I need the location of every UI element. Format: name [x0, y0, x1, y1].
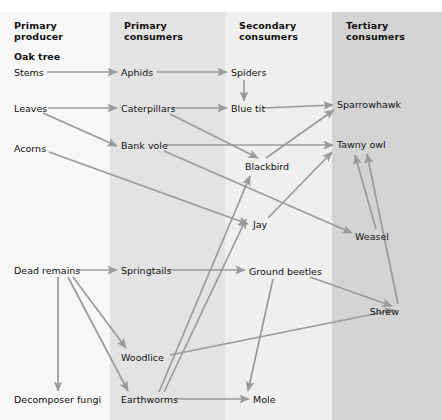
- node-blackbird: Blackbird: [245, 161, 289, 172]
- column-header-primary-producer: Primary producer: [14, 20, 63, 42]
- arrow-woodlice-to-shrew: [170, 310, 394, 355]
- arrow-dead-remains-to-earthworms: [68, 277, 128, 391]
- node-blue-tit: Blue tit: [231, 103, 265, 114]
- node-decomposer-fungi: Decomposer fungi: [14, 394, 101, 405]
- node-caterpillars: Caterpillars: [121, 103, 176, 114]
- node-stems: Stems: [14, 67, 44, 78]
- node-aphids: Aphids: [121, 67, 153, 78]
- node-earthworms: Earthworms: [121, 394, 178, 405]
- food-web-arrows: [0, 0, 442, 420]
- arrow-shrew-to-tawny-owl: [367, 154, 398, 304]
- node-springtails: Springtails: [121, 265, 171, 276]
- arrow-earthworms-to-jay: [164, 219, 246, 392]
- column-header-tertiary-consumers: Tertiary consumers: [346, 20, 405, 42]
- arrow-blue-tit-to-sparrowhawk: [263, 105, 333, 108]
- column-header-secondary-consumers: Secondary consumers: [239, 20, 298, 42]
- node-ground-beetles: Ground beetles: [249, 266, 322, 277]
- arrow-caterpillars-to-blackbird: [170, 114, 258, 158]
- node-woodlice: Woodlice: [121, 352, 164, 363]
- node-acorns: Acorns: [14, 143, 46, 154]
- column-header-primary-consumers: Primary consumers: [124, 20, 183, 42]
- node-jay: Jay: [253, 219, 267, 230]
- node-spiders: Spiders: [231, 67, 266, 78]
- node-weasel: Weasel: [355, 231, 389, 242]
- node-mole: Mole: [253, 394, 276, 405]
- arrow-blackbird-to-sparrowhawk: [266, 110, 334, 158]
- arrow-acorns-to-jay: [49, 152, 248, 224]
- food-web-diagram: Primary producerPrimary consumersSeconda…: [0, 0, 442, 420]
- node-shrew: Shrew: [370, 306, 399, 317]
- node-dead-remains: Dead remains: [14, 265, 80, 276]
- arrow-leaves-to-bank-vole: [43, 113, 117, 146]
- arrow-ground-beetles-to-shrew: [310, 277, 392, 306]
- arrow-weasel-to-tawny-owl: [355, 155, 376, 229]
- node-sparrowhawk: Sparrowhawk: [337, 99, 401, 110]
- node-bank-vole: Bank vole: [121, 140, 168, 151]
- node-oak-tree: Oak tree: [14, 51, 60, 62]
- node-tawny-owl: Tawny owl: [337, 139, 386, 150]
- node-leaves: Leaves: [14, 103, 47, 114]
